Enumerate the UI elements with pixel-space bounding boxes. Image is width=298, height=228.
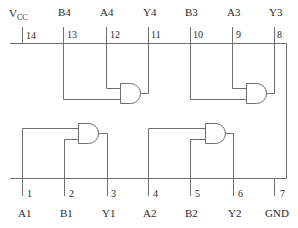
pin-8-number: 8 bbox=[277, 30, 282, 40]
vcc-subscript: CC bbox=[17, 13, 28, 22]
pin-13-label: B4 bbox=[58, 7, 71, 18]
pin-5-label: B2 bbox=[185, 208, 198, 219]
pin-14-number: 14 bbox=[26, 31, 36, 41]
pin-12-number: 12 bbox=[110, 30, 120, 40]
pin-2-label: B1 bbox=[60, 208, 73, 219]
pin-1-number: 1 bbox=[27, 189, 32, 199]
pin-2-number: 2 bbox=[69, 189, 74, 199]
pin-14-label: VCC bbox=[9, 8, 28, 20]
pin-9-number: 9 bbox=[236, 30, 241, 40]
pin-3-label: Y1 bbox=[102, 208, 115, 219]
pin-7-label: GND bbox=[265, 208, 289, 219]
pin-4-number: 4 bbox=[153, 189, 158, 199]
pin-10-label: B3 bbox=[185, 7, 198, 18]
and-gate-4 bbox=[64, 44, 149, 104]
vcc-label: V bbox=[9, 7, 17, 19]
pin-8-label: Y3 bbox=[269, 7, 282, 18]
pin-6-label: Y2 bbox=[228, 208, 241, 219]
pin-11-number: 11 bbox=[151, 30, 161, 40]
pin-11-label: Y4 bbox=[143, 7, 156, 18]
pin-3-number: 3 bbox=[111, 189, 116, 199]
pin-10-number: 10 bbox=[193, 30, 203, 40]
and-gate-3 bbox=[191, 44, 275, 104]
pin-13-number: 13 bbox=[67, 30, 77, 40]
ic-pinout-diagram bbox=[0, 0, 298, 228]
pin-5-number: 5 bbox=[195, 189, 200, 199]
pin-6-number: 6 bbox=[238, 189, 243, 199]
pin-12-label: A4 bbox=[100, 7, 113, 18]
and-gate-2 bbox=[149, 124, 234, 179]
pin-9-label: A3 bbox=[227, 7, 240, 18]
pin-1-label: A1 bbox=[18, 208, 31, 219]
pin-7-number: 7 bbox=[280, 189, 285, 199]
pin-4-label: A2 bbox=[143, 208, 156, 219]
and-gate-1 bbox=[23, 124, 108, 179]
